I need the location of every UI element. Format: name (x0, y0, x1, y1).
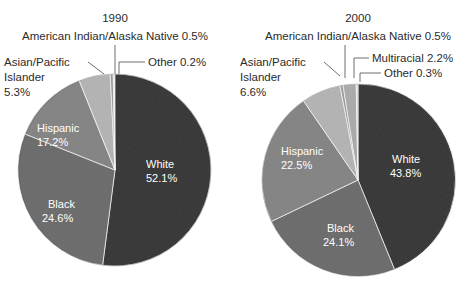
chart-1990-callout-asian-line2: Islander (4, 71, 45, 83)
chart-1990-label-black-line2: 24.6% (42, 212, 73, 224)
chart-1990-leader-asian (88, 62, 104, 74)
chart-2000-leader-other (360, 73, 381, 82)
chart-1990-label-white-line2: 52.1% (146, 172, 177, 184)
chart-1990-label-hispanic-line2: 17.2% (37, 136, 68, 148)
chart-2000-label-black-line2: 24.1% (323, 236, 354, 248)
chart-2000-leader-multiracial (354, 58, 369, 78)
chart-1990-label-hispanic-line1: Hispanic (37, 122, 80, 134)
chart-2000-callout-american-indian: American Indian/Alaska Native 0.5% (265, 30, 451, 42)
figure-canvas: 1990 American Indian/Alaska Native 0.5% … (0, 0, 472, 281)
chart-2000-callout-asian-line1: Asian/Pacific (240, 56, 306, 68)
chart-1990-label-white-line1: White (146, 158, 174, 170)
two-pie-figure: 1990 American Indian/Alaska Native 0.5% … (0, 0, 472, 281)
chart-2000-label-hispanic-line1: Hispanic (281, 145, 324, 157)
chart-2000-callout-other: Other 0.3% (384, 67, 442, 79)
chart-2000-label-white-line1: White (392, 153, 420, 165)
chart-2000: 2000 American Indian/Alaska Native 0.5% … (240, 12, 456, 277)
chart-1990-label-black-line1: Black (48, 198, 75, 210)
chart-2000-label-white-line2: 43.8% (390, 167, 421, 179)
chart-1990-callout-american-indian: American Indian/Alaska Native 0.5% (22, 30, 208, 42)
chart-1990-title: 1990 (102, 12, 128, 24)
chart-2000-callout-asian-line2: Islander (240, 71, 281, 83)
chart-2000-label-black-line1: Black (327, 222, 354, 234)
chart-2000-leader-asian (324, 62, 340, 76)
chart-2000-label-hispanic-line2: 22.5% (281, 159, 312, 171)
chart-2000-callout-asian-line3: 6.6% (240, 86, 266, 98)
chart-1990-callout-asian-line3: 5.3% (4, 86, 30, 98)
chart-2000-callout-multiracial: Multiracial 2.2% (372, 52, 453, 64)
chart-1990-leader-other (119, 62, 145, 76)
chart-1990-callout-asian-line1: Asian/Pacific (4, 56, 70, 68)
chart-1990: 1990 American Indian/Alaska Native 0.5% … (4, 12, 211, 266)
chart-2000-title: 2000 (345, 12, 371, 24)
chart-1990-callout-other: Other 0.2% (148, 56, 206, 68)
